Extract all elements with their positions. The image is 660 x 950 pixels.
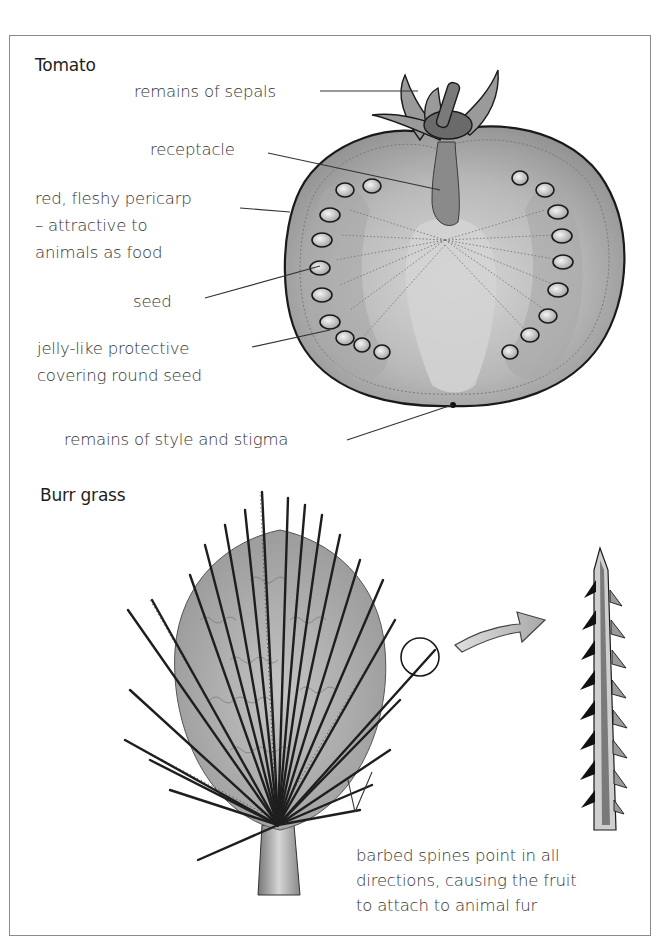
tomato-receptacle — [432, 142, 459, 226]
enlarged-barbed-spine — [580, 548, 627, 830]
illustration-canvas — [0, 0, 660, 950]
burr-grass-fruit — [125, 492, 439, 895]
tomato-cross-section — [285, 70, 625, 408]
magnify-arrow — [455, 612, 545, 652]
burr-stem — [258, 825, 300, 895]
spine-highlight-circle — [401, 638, 439, 676]
